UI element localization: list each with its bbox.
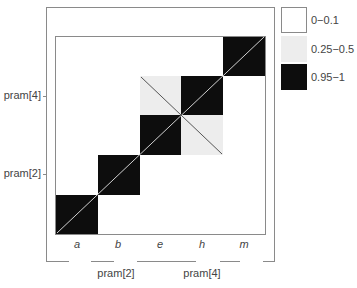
ytick-label-pram2: pram[2] xyxy=(0,167,41,179)
legend-label-high: 0.95−1 xyxy=(311,71,345,83)
xcat-b: b xyxy=(108,238,128,250)
xcat-e: e xyxy=(150,238,170,250)
ytick-pram2 xyxy=(43,174,46,175)
legend-label-mid: 0.25−0.5 xyxy=(311,43,354,55)
ytick-label-pram4: pram[4] xyxy=(0,89,41,101)
ytick-pram4 xyxy=(43,96,46,97)
diagonal-line xyxy=(57,37,264,233)
xgroup-label-pram2: pram[2] xyxy=(86,267,146,279)
xcat-m: m xyxy=(234,238,254,250)
legend-label-low: 0−0.1 xyxy=(311,14,339,26)
legend-swatch-low xyxy=(281,7,307,33)
legend-swatch-high xyxy=(281,64,307,90)
legend-swatch-mid xyxy=(281,36,307,62)
xcat-a: a xyxy=(67,238,87,250)
xgroup-label-pram4: pram[4] xyxy=(172,267,232,279)
xcat-h: h xyxy=(192,238,212,250)
